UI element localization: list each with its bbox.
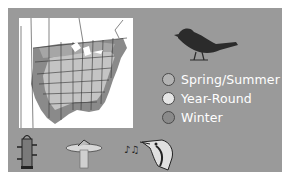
tube-feeder-icon (16, 133, 38, 171)
spring-summer-swatch (162, 73, 175, 86)
winter-swatch (162, 111, 175, 124)
legend-item-spring-summer: Spring/Summer (162, 70, 280, 88)
music-notes-icon: ♪♫ (124, 144, 139, 155)
bird-silhouette-icon (172, 20, 244, 64)
year-round-swatch (162, 92, 175, 105)
us-map-icon (19, 18, 133, 128)
bird-head-icon (140, 136, 178, 172)
legend-label: Winter (181, 110, 223, 125)
legend-item-winter: Winter (162, 108, 280, 126)
birdbath-icon (64, 138, 104, 170)
legend-label: Spring/Summer (181, 72, 280, 87)
range-map (19, 18, 133, 128)
legend-label: Year-Round (181, 91, 252, 106)
legend: Spring/Summer Year-Round Winter (162, 70, 280, 127)
legend-item-year-round: Year-Round (162, 89, 280, 107)
